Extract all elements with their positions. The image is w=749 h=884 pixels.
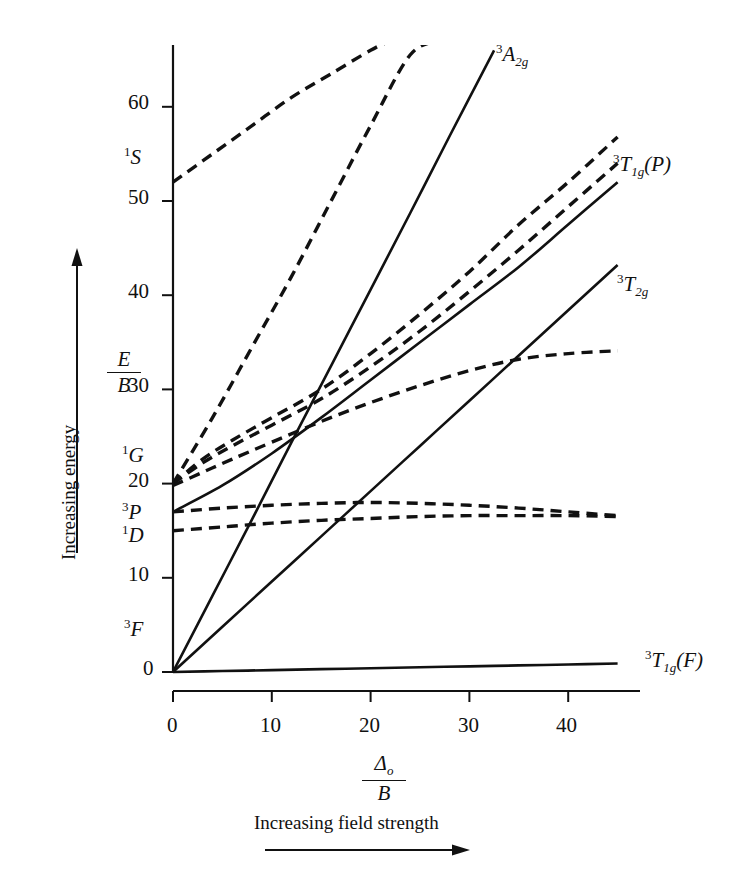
x-tick-label-20: 20 (359, 715, 380, 736)
y-tick-label-20: 20 (128, 470, 149, 491)
x-tick-label-30: 30 (458, 715, 479, 736)
state-3T1gF-subscript: 1g (663, 660, 676, 675)
x-axis-delta-subscript: o (387, 763, 394, 778)
state-label-3T1gF: 3T1g(F) (645, 648, 703, 674)
curve-3A2g (173, 50, 494, 672)
state-3A2g-letter: A (503, 42, 516, 66)
state-3T2g-letter: T (624, 272, 636, 296)
term-1G-letter: G (129, 443, 144, 467)
x-axis-delta-symbol: Δ (375, 751, 387, 775)
state-3A2g-subscript: 2g (515, 54, 528, 69)
x-tick-label-40: 40 (556, 715, 577, 736)
curve-1A1g-steep (173, 41, 440, 484)
state-3T1gP-subscript: 1g (631, 164, 644, 179)
term-label-1D: 1D (122, 523, 144, 546)
x-axis-denominator: B (362, 782, 406, 804)
curve-1Eg-from-D (173, 516, 618, 531)
y-axis-numerator: E (107, 348, 141, 370)
state-3T1gP-letter: T (620, 152, 632, 176)
state-3T1gF-parenthetical: (F) (676, 648, 703, 672)
state-3T1gF-letter: T (652, 648, 664, 672)
curve-group (173, 41, 618, 672)
y-axis-title: E B (107, 348, 141, 396)
y-tick-label-50: 50 (128, 187, 149, 208)
state-label-3A2g: 3A2g (496, 42, 528, 68)
increasing-field-strength-arrow (265, 845, 470, 856)
y-tick-label-60: 60 (128, 92, 149, 113)
axes-group (72, 45, 641, 856)
curve-3T2g (173, 265, 618, 672)
term-label-3F: 3F (124, 617, 143, 640)
x-tick-label-10: 10 (260, 715, 281, 736)
term-label-1G: 1G (122, 443, 144, 466)
state-3T2g-subscript: 2g (635, 284, 648, 299)
curve-1T2g-from-D (173, 502, 618, 515)
x-axis-caption: Increasing field strength (254, 812, 439, 834)
state-3T1gP-parenthetical: (P) (644, 152, 671, 176)
curve-1T2g-upper (173, 137, 618, 484)
x-axis-numerator: Δo (362, 752, 406, 778)
x-tick-marks (173, 691, 568, 702)
curve-3T1g(P) (173, 182, 618, 512)
term-1S-letter: S (131, 145, 142, 169)
curve-1S-derived (173, 41, 390, 182)
term-3P-letter: P (129, 500, 142, 524)
state-label-3T2g: 3T2g (617, 272, 648, 298)
term-3F-letter: F (131, 617, 144, 641)
x-axis-title: Δo B (362, 752, 406, 804)
term-1D-letter: D (129, 523, 144, 547)
y-tick-label-0: 0 (143, 658, 154, 679)
state-label-3T1gP: 3T1g(P) (613, 152, 671, 178)
curve-3T1g(F) (173, 664, 618, 672)
y-tick-label-40: 40 (128, 281, 149, 302)
tanabe-sugano-figure: 60 50 40 30 20 10 0 1S 1G 3P 1D 3F 0 10 … (0, 0, 749, 884)
term-label-3P: 3P (122, 500, 141, 523)
y-tick-marks (162, 107, 173, 672)
x-tick-label-0: 0 (167, 715, 178, 736)
term-label-1S: 1S (124, 145, 141, 168)
y-axis-caption: Increasing energy (58, 425, 80, 560)
y-tick-label-10: 10 (128, 564, 149, 585)
y-axis-denominator: B (107, 374, 141, 396)
